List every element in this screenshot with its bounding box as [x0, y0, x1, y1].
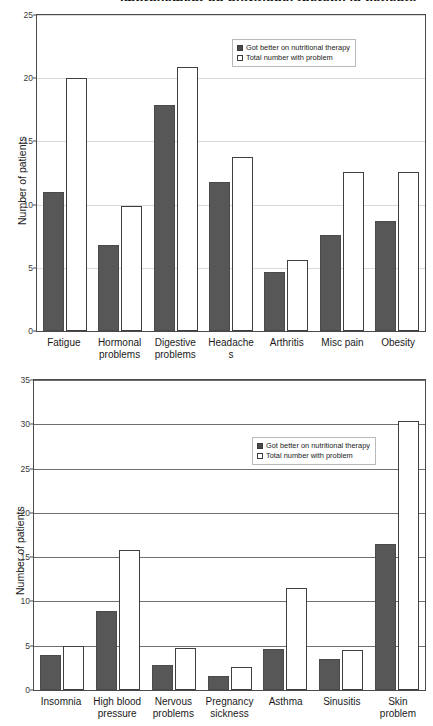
chart2-legend-label-total: Total number with problem [266, 451, 353, 461]
y-tick-label: 15 [21, 553, 30, 562]
x-axis-label: Obesity [370, 334, 426, 361]
legend-swatch-light-icon [237, 55, 243, 61]
bar-total [231, 667, 252, 690]
x-axis-label: Hormonal problems [92, 334, 148, 361]
y-tick-label: 30 [21, 420, 30, 429]
chart1-legend-item-got-better: Got better on nutritional therapy [237, 43, 350, 53]
chart1-legend-label-total: Total number with problem [246, 53, 333, 63]
bar-got-better [96, 611, 117, 690]
chart2-legend-item-total: Total number with problem [257, 451, 370, 461]
chart1-bar-groups [37, 15, 425, 331]
bar-total [398, 421, 419, 690]
bar-got-better [43, 192, 64, 331]
x-axis-label: Headache s [203, 334, 259, 361]
y-tick-label: 25 [21, 464, 30, 473]
bar-total [63, 646, 84, 690]
x-axis-label: Nervous problems [145, 693, 201, 720]
chart2-x-axis-labels: InsomniaHigh blood pressureNervous probl… [33, 693, 426, 720]
legend-swatch-light-icon [257, 453, 263, 459]
bar-got-better [209, 182, 230, 331]
bar-total [343, 172, 364, 331]
y-tick-label: 10 [24, 200, 33, 209]
chart1-legend-item-total: Total number with problem [237, 53, 350, 63]
bar-group [313, 380, 369, 690]
chart2-legend-item-got-better: Got better on nutritional therapy [257, 441, 370, 451]
legend-swatch-dark-icon [237, 45, 243, 51]
bar-group [92, 15, 147, 331]
bar-got-better [375, 221, 396, 331]
chart-page: Improvement on nutritional therapy in pa… [0, 0, 433, 726]
x-axis-label: Arthritis [259, 334, 315, 361]
chart2-legend: Got better on nutritional therapy Total … [252, 437, 376, 465]
y-tick-label: 25 [24, 11, 33, 20]
chart-nutritional-therapy-part2: Number of patients 05101520253035 Got be… [0, 370, 433, 726]
chart1-plot-area: 0510152025 Got better on nutritional the… [36, 14, 426, 332]
bar-total [398, 172, 419, 331]
chart1-x-axis-labels: FatigueHormonal problemsDigestive proble… [36, 334, 426, 361]
bar-group [202, 380, 258, 690]
chart1-title: Improvement on nutritional therapy in pa… [120, 0, 417, 1]
bar-got-better [98, 245, 119, 331]
bar-total [177, 67, 198, 331]
bar-total [232, 157, 253, 331]
bar-group [34, 380, 90, 690]
bar-total [175, 648, 196, 691]
bar-group [148, 15, 203, 331]
bar-total [342, 650, 363, 690]
y-tick-label: 10 [21, 597, 30, 606]
legend-swatch-dark-icon [257, 443, 263, 449]
bar-got-better [208, 676, 229, 690]
x-axis-label: Misc pain [315, 334, 371, 361]
bar-got-better [154, 105, 175, 331]
bar-got-better [152, 665, 173, 690]
bar-group [369, 380, 425, 690]
chart2-plot-area: 05101520253035 Got better on nutritional… [33, 379, 426, 691]
y-tick-label: 35 [21, 376, 30, 385]
chart2-bar-groups [34, 380, 425, 690]
x-axis-label: Sinusitis [314, 693, 370, 720]
y-tick-label: 20 [21, 509, 30, 518]
bar-total [286, 588, 307, 690]
chart1-legend-label-got-better: Got better on nutritional therapy [246, 43, 350, 53]
bar-group [90, 380, 146, 690]
bar-got-better [375, 544, 396, 690]
chart1-legend: Got better on nutritional therapy Total … [232, 39, 356, 67]
x-axis-label: Pregnancy sickness [201, 693, 257, 720]
bar-total [121, 206, 142, 331]
chart1-y-axis-label: Number of patients [16, 136, 28, 225]
chart2-legend-label-got-better: Got better on nutritional therapy [266, 441, 370, 451]
bar-got-better [320, 235, 341, 331]
bar-group [257, 380, 313, 690]
x-axis-label: Skin problem [370, 693, 426, 720]
bar-total [287, 260, 308, 331]
x-axis-label: Asthma [258, 693, 314, 720]
x-axis-label: High blood pressure [89, 693, 145, 720]
bar-total [66, 78, 87, 331]
bar-group [37, 15, 92, 331]
bar-got-better [263, 649, 284, 690]
chart-nutritional-therapy-part1: Improvement on nutritional therapy in pa… [0, 0, 433, 370]
bar-got-better [264, 272, 285, 331]
x-axis-label: Digestive problems [147, 334, 203, 361]
y-tick-label: 15 [24, 137, 33, 146]
bar-group [370, 15, 425, 331]
bar-got-better [319, 659, 340, 690]
x-axis-label: Insomnia [33, 693, 89, 720]
x-axis-label: Fatigue [36, 334, 92, 361]
bar-group [146, 380, 202, 690]
bar-got-better [40, 655, 61, 690]
y-tick-label: 20 [24, 74, 33, 83]
chart2-y-axis-label: Number of patients [14, 506, 26, 595]
bar-total [119, 550, 140, 690]
